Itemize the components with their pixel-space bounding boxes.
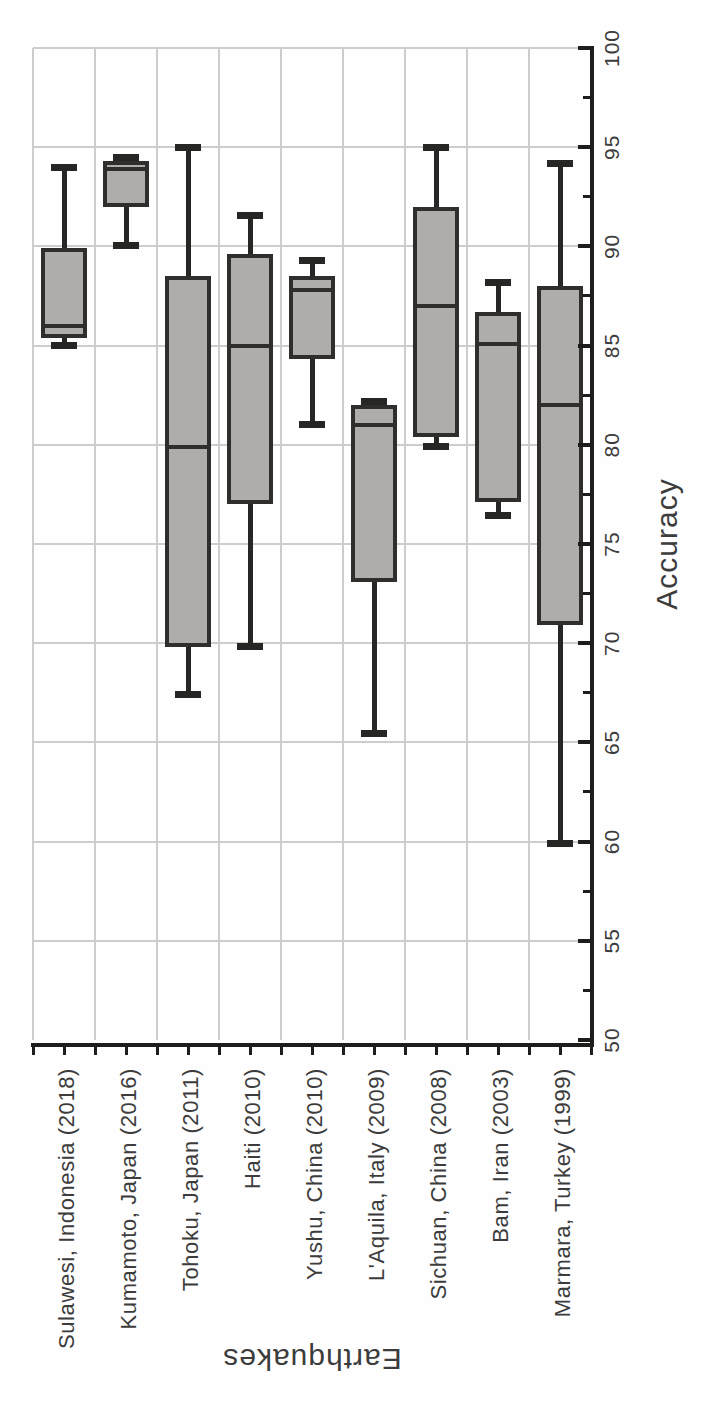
boxplot-whisker-cap-high [113, 154, 139, 161]
boxplot-median [539, 403, 581, 407]
boxplot-whisker-cap-high [51, 164, 77, 171]
boxplot-whisker-cap-high [175, 144, 201, 151]
minor-tick-accuracy [583, 592, 590, 595]
category-label: Sulawesi, Indonesia (2018) [55, 1068, 79, 1349]
boxplot-whisker-stem-high [496, 282, 501, 312]
category-tick [404, 1047, 407, 1055]
tick-label-accuracy-80: 80 [601, 403, 622, 487]
minor-tick-accuracy [583, 989, 590, 992]
boxplot-whisker-stem-low [310, 360, 315, 425]
boxplot-median [353, 423, 395, 427]
gridline-accuracy-65 [33, 741, 590, 743]
boxplot-whisker-cap-high [237, 212, 263, 219]
boxplot-whisker-stem-high [62, 167, 67, 248]
boxplot-whisker-stem-low [248, 504, 253, 647]
tick-label-accuracy-65: 65 [601, 700, 622, 784]
boxplot-median [229, 344, 271, 348]
tick-label-accuracy-70: 70 [601, 601, 622, 685]
category-tick [32, 1047, 35, 1055]
boxplot-whisker-cap-low [51, 342, 77, 349]
category-label: Kumamoto, Japan (2016) [117, 1068, 141, 1329]
gridline-accuracy-75 [33, 543, 590, 545]
tick-label-accuracy-75: 75 [601, 502, 622, 586]
boxplot-box [475, 312, 521, 502]
boxplot-whisker-stem-high [186, 147, 191, 276]
category-tick [218, 1047, 221, 1055]
category-tick [311, 1047, 314, 1055]
gridline-accuracy-70 [33, 642, 590, 644]
boxplot-median [477, 342, 519, 346]
boxplot-median [415, 304, 457, 308]
category-tick [373, 1047, 376, 1055]
major-tick-accuracy-60 [578, 840, 590, 844]
boxplot-median [43, 324, 85, 328]
gridline-category-boundary [32, 48, 34, 1040]
boxplot-whisker-stem-low [124, 207, 129, 247]
tick-label-accuracy-85: 85 [601, 304, 622, 388]
major-tick-accuracy-75 [578, 542, 590, 546]
major-tick-accuracy-85 [578, 344, 590, 348]
boxplot-box [227, 254, 273, 504]
gridline-category-boundary [404, 48, 406, 1040]
major-tick-accuracy-55 [578, 939, 590, 943]
minor-tick-accuracy [583, 295, 590, 298]
tick-label-accuracy-50: 50 [601, 998, 622, 1082]
boxplot-whisker-cap-low [237, 643, 263, 650]
major-tick-accuracy-65 [578, 740, 590, 744]
boxplot-whisker-cap-high [485, 279, 511, 286]
category-tick [94, 1047, 97, 1055]
boxplot-whisker-cap-low [175, 691, 201, 698]
tick-label-accuracy-95: 95 [601, 105, 622, 189]
category-label: Marmara, Turkey (1999) [551, 1068, 575, 1317]
boxplot-box [413, 207, 459, 437]
minor-tick-accuracy [583, 691, 590, 694]
gridline-category-boundary [466, 48, 468, 1040]
category-tick [435, 1047, 438, 1055]
boxplot-whisker-stem-low [558, 625, 563, 843]
gridline-category-boundary [94, 48, 96, 1040]
boxplot-whisker-cap-high [361, 398, 387, 405]
gridline-accuracy-60 [33, 841, 590, 843]
value-axis-title: Accuracy [650, 374, 684, 714]
category-tick [249, 1047, 252, 1055]
value-axis-line [590, 46, 594, 1047]
boxplot-box [351, 405, 397, 582]
gridline-category-boundary [342, 48, 344, 1040]
category-tick [559, 1047, 562, 1055]
boxplot-median [105, 167, 147, 171]
boxplot-whisker-cap-low [423, 443, 449, 450]
major-tick-accuracy-90 [578, 244, 590, 248]
category-axis-title: Earthquakes [162, 1342, 462, 1376]
minor-tick-accuracy [583, 394, 590, 397]
category-tick [280, 1047, 283, 1055]
minor-tick-accuracy [583, 195, 590, 198]
boxplot-whisker-stem-high [558, 163, 563, 286]
tick-label-accuracy-55: 55 [601, 899, 622, 983]
boxplot-whisker-stem-low [186, 647, 191, 695]
tick-label-accuracy-90: 90 [601, 204, 622, 288]
boxplot-whisker-cap-low [547, 840, 573, 847]
category-label: Tohoku, Japan (2011) [179, 1068, 203, 1291]
boxplot-whisker-cap-high [423, 144, 449, 151]
boxplot-box [537, 286, 583, 625]
gridline-accuracy-100 [33, 47, 590, 49]
boxplot-whisker-stem-low [372, 582, 377, 735]
rotated-chart-canvas: Accuracy Earthquakes 5055606570758085909… [0, 0, 706, 1410]
category-tick [187, 1047, 190, 1055]
category-label: L'Aquila, Italy (2009) [365, 1068, 389, 1281]
boxplot-whisker-cap-high [299, 257, 325, 264]
major-tick-accuracy-100 [578, 46, 590, 50]
gridline-category-boundary [218, 48, 220, 1040]
boxplot-whisker-stem-high [248, 215, 253, 255]
boxplot-box [165, 276, 211, 647]
gridline-category-boundary [528, 48, 530, 1040]
category-tick [497, 1047, 500, 1055]
category-tick [63, 1047, 66, 1055]
boxplot-median [167, 445, 209, 449]
gridline-category-boundary [156, 48, 158, 1040]
boxplot-whisker-cap-low [113, 242, 139, 249]
minor-tick-accuracy [583, 890, 590, 893]
tick-label-accuracy-60: 60 [601, 800, 622, 884]
category-tick [156, 1047, 159, 1055]
boxplot-median [291, 288, 333, 292]
